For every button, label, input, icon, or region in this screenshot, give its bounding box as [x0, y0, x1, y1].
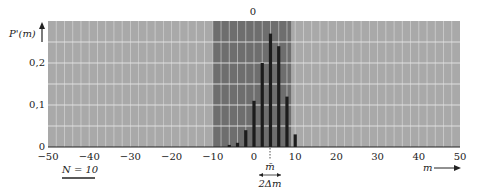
- bar: [252, 101, 255, 147]
- x-tick-label: 40: [412, 151, 425, 162]
- x-tick-label: −40: [79, 151, 100, 162]
- x-axis-arrow-icon: [434, 165, 461, 171]
- mean-label: m̄: [265, 161, 274, 172]
- bar: [285, 97, 288, 147]
- y-tick-label: 0,1: [29, 99, 45, 110]
- bar: [277, 46, 280, 147]
- x-axis-label: m: [423, 162, 432, 173]
- bar: [261, 63, 264, 147]
- x-tick-label: −50: [37, 151, 58, 162]
- x-tick-label: 20: [330, 151, 343, 162]
- width-arrow-icon: [259, 173, 281, 177]
- x-tick-label: 50: [454, 151, 467, 162]
- x-tick-label: −10: [202, 151, 223, 162]
- x-tick-label: 0: [251, 151, 257, 162]
- x-tick-label: −20: [161, 151, 182, 162]
- y-tick-label: 0: [39, 141, 45, 152]
- bar: [294, 134, 297, 147]
- top-annotation: 0: [250, 6, 256, 17]
- x-tick-label: 30: [371, 151, 384, 162]
- bar: [244, 130, 247, 147]
- n-label: N = 10: [61, 164, 99, 175]
- x-tick-label: −30: [120, 151, 141, 162]
- y-axis-arrow-icon: [39, 22, 45, 42]
- width-label: 2Δm: [257, 178, 281, 189]
- y-axis-label: P'(m): [8, 28, 36, 39]
- probability-bar-chart: −50−40−30−20−1001020304050 00,10,2 0 P'(…: [0, 0, 488, 196]
- bar: [269, 34, 272, 147]
- y-tick-labels: 00,10,2: [29, 57, 45, 152]
- bar: [236, 143, 239, 147]
- x-tick-label: 10: [289, 151, 302, 162]
- y-tick-label: 0,2: [29, 57, 45, 68]
- x-tick-labels: −50−40−30−20−1001020304050: [37, 151, 466, 162]
